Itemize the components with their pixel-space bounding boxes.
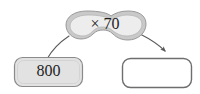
output-box[interactable]	[123, 59, 192, 88]
diagram-canvas: × 70 800	[0, 0, 200, 94]
input-box-value: 800	[37, 62, 61, 79]
operation-label: × 70	[90, 15, 119, 32]
connector-input-to-operation	[47, 36, 69, 59]
function-machine-diagram: × 70 800	[0, 0, 200, 94]
connector-operation-to-output-arrow	[140, 34, 165, 51]
